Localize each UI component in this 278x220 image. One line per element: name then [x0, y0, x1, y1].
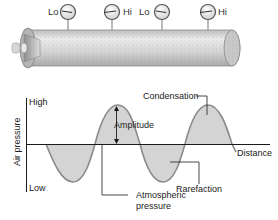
pressure-gauges	[61, 5, 216, 20]
tube-end-particles	[225, 31, 239, 65]
gauge-label-lo: Lo	[139, 7, 150, 17]
condensation-label: Condensation	[143, 91, 199, 101]
gauge-icon	[104, 5, 120, 20]
atmospheric-pressure-label-line2: pressure	[136, 201, 171, 211]
atmospheric-leader	[102, 145, 128, 195]
y-axis-label: Air pressure	[12, 117, 22, 166]
y-high-label: High	[29, 97, 48, 107]
gauge-icon	[200, 5, 216, 20]
sound-tube	[12, 20, 240, 68]
air-particles	[30, 32, 230, 64]
speaker-center	[21, 43, 27, 53]
gauge-label-hi: Hi	[218, 7, 227, 17]
wave-fill	[46, 105, 232, 182]
gauge-icon	[155, 5, 170, 20]
atmospheric-pressure-label-line1: Atmospheric	[136, 190, 186, 200]
gauge-label-lo: Lo	[48, 7, 59, 17]
gauge-icon	[61, 5, 76, 20]
y-low-label: Low	[29, 183, 46, 193]
pressure-graph	[26, 96, 270, 195]
gauge-label-hi: Hi	[123, 7, 132, 17]
amplitude-label: Amplitude	[114, 120, 154, 130]
x-axis-label: Distance	[237, 148, 272, 158]
speaker-knob	[12, 43, 20, 53]
